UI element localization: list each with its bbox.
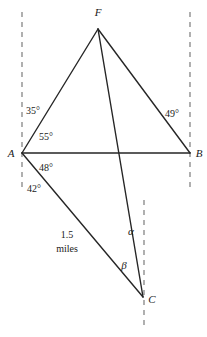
segment-f-c <box>98 29 143 297</box>
angle-label-55: 55° <box>39 131 53 142</box>
angle-label-alpha: α <box>128 225 134 237</box>
angle-label-beta: β <box>120 259 127 271</box>
geometry-figure: F A B C 35° 55° 49° 48° 42° α β 1.5 mile… <box>0 0 207 337</box>
segment-a-f <box>22 29 98 153</box>
angle-label-35: 35° <box>26 105 40 116</box>
distance-label-unit: miles <box>56 243 78 254</box>
vertex-label-f: F <box>94 6 102 18</box>
vertex-label-b: B <box>196 147 203 159</box>
angle-label-42: 42° <box>27 183 41 194</box>
segment-f-b <box>98 29 190 153</box>
diagram-canvas: F A B C 35° 55° 49° 48° 42° α β 1.5 mile… <box>0 0 207 337</box>
angle-label-49: 49° <box>165 108 179 119</box>
distance-label-value: 1.5 <box>61 229 74 240</box>
angle-label-48: 48° <box>39 162 53 173</box>
vertex-label-c: C <box>148 293 156 305</box>
segment-a-c <box>22 153 143 297</box>
vertex-label-a: A <box>7 147 15 159</box>
